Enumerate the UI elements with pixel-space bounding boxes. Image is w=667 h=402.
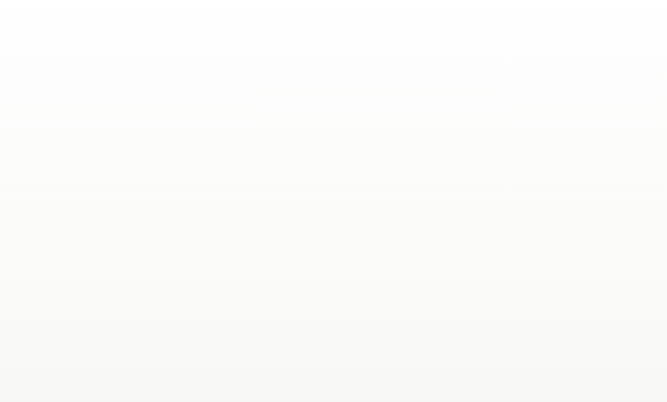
bar-category-label: Read a book	[470, 196, 530, 213]
bar-row: 41Play console video games	[303, 225, 667, 253]
bar-category-label: Watch prerecorded TV	[391, 336, 496, 353]
bar-category-label: Listen to a CD/tape/MP3	[539, 84, 652, 101]
bar-value-label: 41	[421, 225, 437, 240]
headline-line-2: People	[32, 33, 156, 64]
bar-category-label: Watch TV	[580, 28, 626, 45]
bar-row: 13Go to a movie	[303, 365, 667, 393]
headline-line-3: Use	[32, 64, 156, 95]
bar-row: 68Listen to a CD/tape/MP3	[303, 85, 667, 113]
bar-value-label: 81	[547, 29, 563, 44]
infographic-page: How Young People Use the Media	[0, 0, 667, 402]
bar-value-label: 34	[399, 309, 415, 324]
bar-row: 47Read a magazine	[303, 169, 667, 197]
bar-value-label: 68	[506, 85, 522, 100]
chart-title: Percentage of 8- to 18-year-olds	[303, 7, 513, 21]
bar-category-label: Read a newspaper	[432, 308, 520, 325]
bar-category-label: Use a computer	[495, 112, 569, 129]
bar-fill	[303, 29, 569, 44]
bar-value-label: 46	[437, 197, 453, 212]
bar-category-label: Listen to the radio	[558, 56, 641, 73]
bar-row: 39Watch videos/DVDs	[303, 253, 667, 281]
bar-fill	[303, 169, 462, 184]
bar-value-label: 21	[358, 337, 374, 352]
bar-row: 47Go online	[303, 141, 667, 169]
bar-value-label: 39	[415, 253, 431, 268]
bar-row: 34Read a newspaper	[303, 309, 667, 337]
bar-chart: Percentage of 8- to 18-year-olds 81Watch…	[303, 0, 667, 402]
bar-value-label: 13	[333, 365, 349, 380]
bar-category-label: Watch videos/DVDs	[448, 252, 541, 269]
bar-category-label: Play handheld video games	[435, 280, 564, 297]
bar-row: 46Read a book	[303, 197, 667, 225]
bar-value-label: 47	[440, 141, 456, 156]
bar-fill	[303, 113, 484, 128]
bar-fill	[303, 141, 462, 156]
bar-category-label: Go to a movie	[366, 364, 431, 381]
bar-category-label: Go online	[473, 140, 518, 157]
bar-row: 35Play handheld video games	[303, 281, 667, 309]
headline-line-4: the Media	[32, 95, 156, 126]
woman-sitting-with-laptop-photo	[0, 96, 300, 402]
bar-value-label: 74	[525, 57, 541, 72]
bar-fill	[303, 197, 459, 212]
bar-value-label: 47	[440, 169, 456, 184]
headline-line-1: How Young	[32, 2, 156, 33]
bar-row: 54Use a computer	[303, 113, 667, 141]
bar-value-label: 35	[402, 281, 418, 296]
bar-row: 74Listen to the radio	[303, 57, 667, 85]
bar-category-label: Play console video games	[454, 224, 576, 241]
bar-list: 81Watch TV74Listen to the radio68Listen …	[303, 29, 667, 393]
bar-value-label: 54	[462, 113, 478, 128]
bar-fill	[303, 57, 547, 72]
bar-row: 21Watch prerecorded TV	[303, 337, 667, 365]
bar-fill	[303, 85, 528, 100]
headline-block: How Young People Use the Media	[8, 2, 156, 126]
bar-category-label: Read a magazine	[473, 168, 555, 185]
bar-row: 81Watch TV	[303, 29, 667, 57]
